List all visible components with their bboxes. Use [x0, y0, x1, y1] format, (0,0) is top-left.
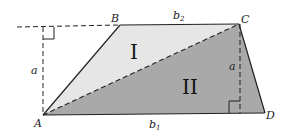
vertex-label-C: C [241, 13, 250, 26]
region-label-I: I [130, 40, 138, 64]
region-label-II: II [182, 75, 198, 99]
right-angle-left [43, 27, 54, 39]
trapezoid-diagram: A B C D I II b2 b1 a a [0, 0, 289, 138]
vertex-label-B: B [110, 12, 119, 25]
top-base-extension [17, 25, 120, 27]
label-b2: b2 [173, 9, 185, 23]
label-b1: b1 [149, 118, 161, 132]
vertex-label-D: D [265, 109, 275, 122]
label-a-left: a [31, 64, 38, 77]
vertex-label-A: A [33, 117, 42, 130]
label-a-right: a [229, 60, 236, 73]
